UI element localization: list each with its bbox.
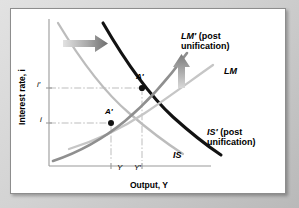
lm-shifted-label-line1: LM′ [181, 31, 196, 41]
figure-panel: Interest rate, i Output, Y LM′ (post uni… [10, 8, 286, 194]
lm-shifted-label-line3: unification) [181, 41, 230, 51]
x-tick-label-y: Y [117, 164, 122, 173]
lm-shifted-label-line2: (post [196, 31, 221, 41]
lm-shifted-label: LM′ (post unification) [181, 31, 230, 51]
x-tick-label-y-prime: Y′ [134, 164, 141, 173]
equilibrium-label-old: A′ [105, 108, 113, 117]
is-shifted-label: IS′ (post unification) [207, 127, 256, 147]
is-shift-arrow-right [63, 35, 108, 52]
tick-marks [46, 88, 142, 169]
is-shifted-label-line2: (post [218, 127, 243, 137]
is-lm-plot [11, 9, 287, 195]
lm-curve-shifted [53, 53, 187, 161]
y-tick-label-i-prime: i′ [37, 81, 40, 90]
y-tick-label-i: i [40, 116, 42, 125]
y-axis-title: Interest rate, i [18, 69, 28, 125]
is-shifted-label-line1: IS′ [207, 127, 218, 137]
equilibrium-label-new: A′ [136, 73, 144, 82]
lm-original-label: LM [224, 66, 237, 76]
is-shifted-label-line3: unification) [207, 137, 256, 147]
figure-root: Interest rate, i Output, Y LM′ (post uni… [0, 0, 299, 208]
equilibrium-point-new [139, 85, 145, 91]
x-axis-title: Output, Y [130, 181, 168, 191]
is-original-label: IS [173, 150, 182, 160]
equilibrium-point-old [108, 120, 114, 126]
